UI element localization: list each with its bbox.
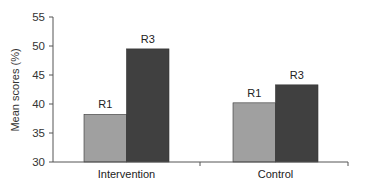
x-category-label: Intervention [98, 168, 155, 180]
y-tick-label: 35 [32, 127, 45, 139]
bar-r1 [84, 114, 127, 162]
y-tick-label: 30 [32, 156, 45, 168]
y-axis: 303540455055 [32, 11, 53, 168]
y-tick-label: 50 [32, 40, 45, 52]
bar-label: R1 [98, 98, 112, 110]
bar-label: R3 [290, 69, 304, 81]
y-tick-label: 40 [32, 98, 45, 110]
bar-label: R1 [247, 87, 261, 99]
y-tick-label: 45 [32, 69, 45, 81]
bar-label: R3 [141, 33, 155, 45]
bars: R1R3R1R3 [84, 33, 318, 162]
x-category-label: Control [258, 168, 293, 180]
y-axis-title: Mean scores (%) [9, 48, 21, 131]
bar-r3 [276, 85, 319, 162]
bar-r3 [127, 49, 170, 162]
bar-chart: 303540455055 R1R3R1R3 InterventionContro… [0, 0, 365, 188]
x-axis: InterventionControl [53, 162, 348, 180]
bar-r1 [233, 103, 276, 162]
y-tick-label: 55 [32, 11, 45, 23]
